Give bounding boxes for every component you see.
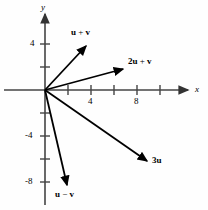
vector-label-2u-plus-v: 2u + v (128, 57, 152, 66)
vector-label-u-plus-v-operator: + (76, 27, 86, 37)
vector-label-u-minus-v-term2: v (70, 189, 75, 199)
vector-u-plus-v (45, 46, 86, 90)
vector-label-2u-plus-v-term2: v (147, 56, 152, 66)
vector-label-u-plus-v-term2: v (86, 27, 91, 37)
vector-label-2u-plus-v-operator: + (138, 56, 148, 66)
vector-label-u-minus-v-operator: − (60, 189, 70, 199)
vector-2u-plus-v (45, 69, 123, 90)
y-tick-label-4: 4 (30, 39, 35, 48)
x-axis-label: x (195, 85, 199, 94)
y-tick-label-neg4: -4 (25, 131, 33, 140)
vector-label-3u: 3u (152, 156, 162, 165)
x-tick-label-8: 8 (134, 97, 139, 106)
vector-arrows (45, 46, 147, 185)
x-tick-label-4: 4 (88, 97, 93, 106)
y-axis-label: y (41, 3, 45, 12)
vector-3u (45, 90, 147, 161)
vector-label-u-minus-v: u − v (55, 190, 74, 199)
vector-u-minus-v (45, 90, 67, 185)
vector-label-u-plus-v: u + v (71, 28, 90, 37)
y-tick-label-neg8: -8 (25, 177, 33, 186)
vector-diagram-figure: x y 4 8 4 -4 -8 u + v 2u + v 3u u − v (0, 0, 208, 210)
vector-label-2u-plus-v-term1: 2u (128, 56, 138, 66)
